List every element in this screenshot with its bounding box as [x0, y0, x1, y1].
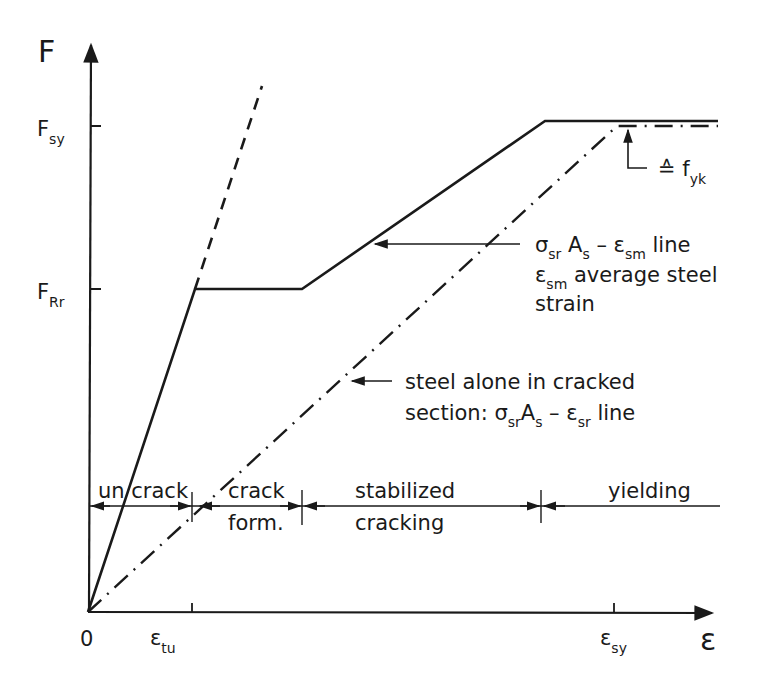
- origin-label: 0: [80, 627, 93, 651]
- composite-line-label-2: εsm average steel: [535, 263, 717, 292]
- steel-alone-label-2: section: σsrAs – εsr line: [405, 401, 635, 430]
- tension-stiffening-diagram: F ε 0 Fsy FRr εtu εsy ≙ fyk σsr As – εsm…: [0, 0, 759, 696]
- composite-line-label-3: strain: [535, 292, 595, 316]
- fyk-annotation: ≙ fyk: [658, 157, 707, 187]
- composite-line: [88, 121, 718, 612]
- esy-label: εsy: [600, 626, 627, 656]
- region-stabilized-1: stabilized: [355, 479, 455, 503]
- x-axis-label: ε: [700, 622, 716, 657]
- region-stabilized-2: cracking: [355, 511, 444, 535]
- region-crack-formation-2: form.: [228, 511, 284, 535]
- steel-alone-line: [88, 126, 718, 612]
- region-crack-formation-1: crack: [228, 479, 286, 503]
- y-axis-label: F: [38, 34, 55, 69]
- y-axis: [89, 45, 91, 612]
- fsy-label: Fsy: [37, 117, 65, 147]
- fyk-pointer: [628, 140, 647, 168]
- region-yielding: yielding: [608, 479, 691, 503]
- steel-alone-label-1: steel alone in cracked: [405, 370, 635, 394]
- etu-label: εtu: [150, 626, 176, 656]
- frr-label: FRr: [37, 280, 65, 310]
- uncracked-extension-dashed: [195, 86, 262, 289]
- x-axis: [88, 612, 712, 613]
- composite-line-label-1: σsr As – εsm line: [535, 233, 690, 262]
- region-uncracked: un crack: [98, 479, 189, 503]
